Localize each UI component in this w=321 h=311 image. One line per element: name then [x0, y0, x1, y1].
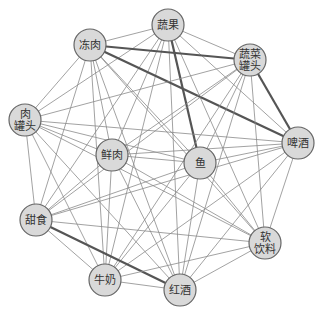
node-label: 冻肉: [79, 38, 101, 52]
node-label: 甜食: [25, 213, 47, 227]
node-tianshi: 甜食: [20, 204, 52, 236]
node-label: 鱼: [195, 156, 206, 170]
node-rouguantou: 肉罐头: [9, 104, 41, 136]
node-label: 鲜肉: [101, 148, 123, 162]
node-pijiu: 啤酒: [282, 127, 314, 159]
edge-dongrou-shucaiguantou: [90, 45, 250, 60]
node-label: 红酒: [169, 284, 191, 297]
node-label: 软: [260, 230, 271, 244]
node-yu: 鱼: [184, 147, 216, 179]
node-dongrou: 冻肉: [74, 29, 106, 61]
node-ruanyinliao: 软饮料: [249, 227, 281, 259]
nodes-layer: 蔬果冻肉蔬菜罐头肉罐头啤酒鲜肉鱼甜食软饮料牛奶红酒: [9, 9, 314, 306]
edge-xianrou-niunai: [105, 155, 112, 280]
node-shuguo: 蔬果: [152, 9, 184, 41]
node-label: 啤酒: [287, 136, 309, 150]
edge-dongrou-tianshi: [36, 45, 90, 220]
node-xianrou: 鲜肉: [96, 139, 128, 171]
edge-yu-hongjiu: [180, 163, 200, 290]
node-shucaiguantou: 蔬菜罐头: [234, 44, 266, 76]
node-label: 饮料: [254, 242, 276, 256]
node-niunai: 牛奶: [89, 264, 121, 296]
node-label: 蔬果: [157, 19, 179, 32]
node-label: 罐头: [239, 60, 261, 73]
edge-shuguo-pijiu: [168, 25, 298, 143]
network-diagram: 蔬果冻肉蔬菜罐头肉罐头啤酒鲜肉鱼甜食软饮料牛奶红酒: [0, 0, 321, 311]
edge-xianrou-hongjiu: [112, 155, 180, 290]
node-label: 罐头: [14, 120, 36, 133]
node-hongjiu: 红酒: [164, 274, 196, 306]
node-label: 牛奶: [94, 273, 116, 287]
